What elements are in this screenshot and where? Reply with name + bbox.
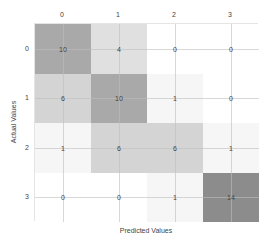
confusion-matrix-grid: 10 4 0 0 6 10 1 0 1 6 6 1 0 0 1 14 <box>34 23 258 221</box>
cell-0-1: 4 <box>91 24 147 74</box>
cell-3-2: 1 <box>147 173 203 223</box>
y-tick-1: 1 <box>25 94 29 101</box>
cell-2-1: 6 <box>91 123 147 173</box>
x-axis-label: Predicted Values <box>120 227 172 234</box>
x-tick-2: 2 <box>172 11 176 18</box>
cell-0-2: 0 <box>147 24 203 74</box>
cell-1-1: 10 <box>91 74 147 124</box>
cell-3-3: 14 <box>203 173 259 223</box>
y-axis-label: Actual Values <box>10 101 17 143</box>
y-tick-3: 3 <box>25 193 29 200</box>
cell-1-0: 6 <box>35 74 91 124</box>
x-tick-0: 0 <box>60 11 64 18</box>
y-tick-2: 2 <box>25 144 29 151</box>
x-tick-3: 3 <box>228 11 232 18</box>
y-tick-0: 0 <box>25 45 29 52</box>
cell-2-3: 1 <box>203 123 259 173</box>
cell-0-3: 0 <box>203 24 259 74</box>
cell-3-1: 0 <box>91 173 147 223</box>
cell-2-2: 6 <box>147 123 203 173</box>
x-tick-1: 1 <box>116 11 120 18</box>
cell-2-0: 1 <box>35 123 91 173</box>
cell-1-3: 0 <box>203 74 259 124</box>
cell-3-0: 0 <box>35 173 91 223</box>
cell-0-0: 10 <box>35 24 91 74</box>
cell-1-2: 1 <box>147 74 203 124</box>
